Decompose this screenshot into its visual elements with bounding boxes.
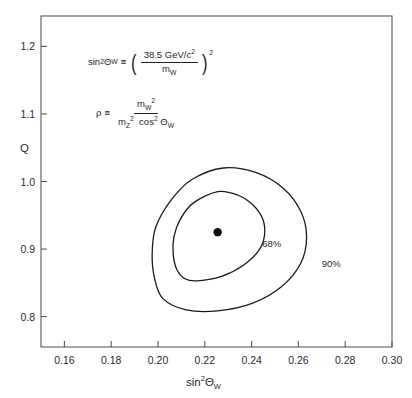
- y-tick-label-0.9: 0.9: [20, 243, 35, 255]
- formula2-denominator-mass-subscript: Z: [126, 122, 130, 129]
- formula1-open-paren: (: [131, 54, 136, 72]
- x-tick-label-0.28: 0.28: [335, 354, 356, 366]
- annotation-formulas: sin2ΘW ≡ ( 38.5 GeV/c2 mW ) 2 ρ ≡ mW2 mZ…: [88, 48, 348, 130]
- formula1-numerator: 38.5 GeV/c2: [141, 48, 198, 63]
- formula2-numerator: mW2: [134, 97, 158, 114]
- formula1-fraction: 38.5 GeV/c2 mW: [141, 48, 198, 77]
- formula2-denominator-cos-exponent: 2: [154, 115, 158, 122]
- x-axis-ticks: [64, 341, 392, 347]
- x-tick-label-0.18: 0.18: [101, 354, 122, 366]
- formula1-lhs-subscript: W: [111, 58, 117, 66]
- formula-rho-definition: ρ ≡ mW2 mZ2 cos2 ΘW: [96, 97, 348, 130]
- confidence-contours: [152, 168, 306, 312]
- formula1-denominator-base: m: [162, 63, 170, 74]
- formula1-lhs-theta: Θ: [104, 57, 111, 68]
- y-axis-label: Q: [20, 142, 29, 154]
- formula2-numerator-base: m: [137, 98, 145, 109]
- contour-labels: 68%90%: [262, 238, 341, 269]
- formula1-lhs-base: sin: [88, 57, 100, 68]
- formula2-denominator-mass: m: [118, 116, 126, 127]
- x-tick-label-0.22: 0.22: [195, 354, 216, 366]
- x-axis-tick-labels: 0.160.180.200.220.240.260.280.30: [54, 354, 402, 366]
- figure-container: 0.160.180.200.220.240.260.280.30 0.80.91…: [0, 0, 412, 398]
- contour-label-68pct: 68%: [262, 238, 282, 249]
- formula1-equivalence-sign: ≡: [121, 57, 127, 68]
- formula2-equivalence-sign: ≡: [104, 108, 110, 119]
- x-tick-label-0.26: 0.26: [288, 354, 309, 366]
- contour-label-90pct: 90%: [322, 258, 342, 269]
- x-axis-label-base: sin: [186, 376, 201, 388]
- formula1-close-paren: ): [202, 54, 207, 72]
- x-axis-label-theta: Θ: [205, 376, 214, 388]
- formula2-denominator-theta-subscript: W: [168, 122, 174, 129]
- y-axis-ticks: [41, 46, 47, 316]
- y-tick-label-1.0: 1.0: [20, 176, 35, 188]
- formula2-lhs-symbol: ρ: [96, 108, 101, 119]
- formula2-denominator-mass-exponent: 2: [130, 115, 134, 122]
- x-tick-label-0.30: 0.30: [382, 354, 403, 366]
- formula1-numerator-exponent: 2: [191, 48, 195, 55]
- formula2-denominator-cos: cos: [139, 116, 154, 127]
- x-tick-label-0.16: 0.16: [54, 354, 75, 366]
- y-axis-tick-labels: 0.80.91.01.11.2: [20, 40, 35, 322]
- formula2-denominator-theta: Θ: [160, 116, 167, 127]
- best-fit-point-marker: [213, 228, 221, 236]
- best-fit-marker: [213, 228, 221, 236]
- y-tick-label-0.8: 0.8: [20, 311, 35, 323]
- x-tick-label-0.24: 0.24: [241, 354, 262, 366]
- formula1-denominator: mW: [159, 63, 179, 77]
- y-tick-label-1.1: 1.1: [20, 108, 35, 120]
- formula2-numerator-exponent: 2: [151, 97, 155, 104]
- contour-90pct: [152, 168, 306, 312]
- x-axis-label-subscript: W: [214, 382, 222, 391]
- formula1-numerator-text: 38.5 GeV/c: [144, 49, 192, 60]
- x-tick-label-0.20: 0.20: [148, 354, 169, 366]
- x-axis-label: sin2ΘW: [186, 374, 222, 391]
- formula1-outer-exponent: 2: [209, 49, 213, 57]
- formula2-fraction: mW2 mZ2 cos2 ΘW: [115, 97, 177, 130]
- formula-sin2theta-definition: sin2ΘW ≡ ( 38.5 GeV/c2 mW ) 2: [88, 48, 348, 77]
- formula1-denominator-subscript: W: [170, 69, 176, 76]
- y-tick-label-1.2: 1.2: [20, 40, 35, 52]
- formula2-denominator: mZ2 cos2 ΘW: [115, 114, 177, 130]
- formula2-numerator-subscript: W: [145, 104, 151, 111]
